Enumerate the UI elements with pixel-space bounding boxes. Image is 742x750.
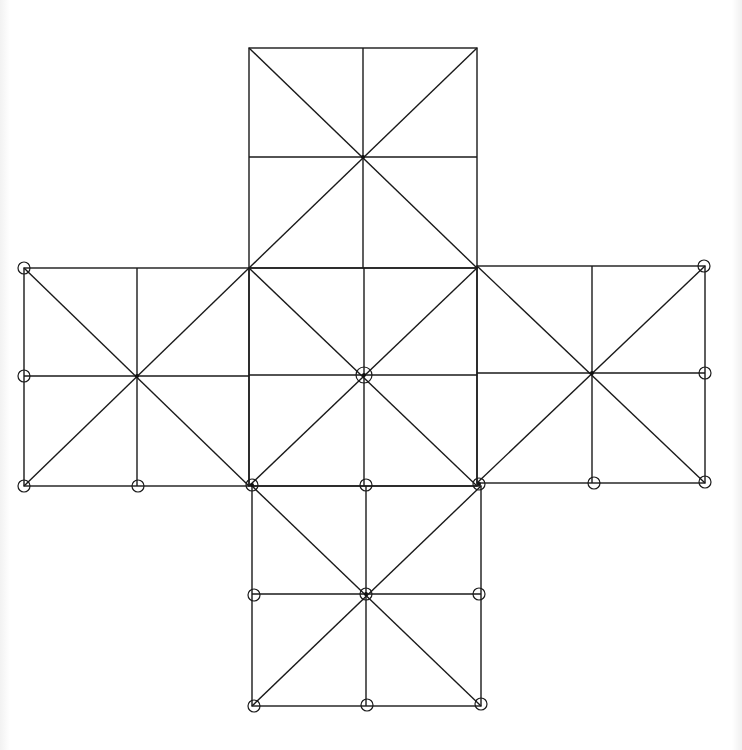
intersection-dot [135,374,139,378]
intersection-dot [590,371,594,375]
vertex-circle-marker [361,699,373,711]
intersection-dot [361,155,365,159]
square-center [249,268,477,486]
square-bottom [252,486,481,706]
cube-net-diagram [0,0,742,750]
intersection-dot [364,592,368,596]
intersection-dot [477,482,481,486]
intersection-dot [250,483,254,487]
vertex-circle-marker [248,589,260,601]
squares-layer [24,48,705,706]
intersection-dot [362,373,366,377]
